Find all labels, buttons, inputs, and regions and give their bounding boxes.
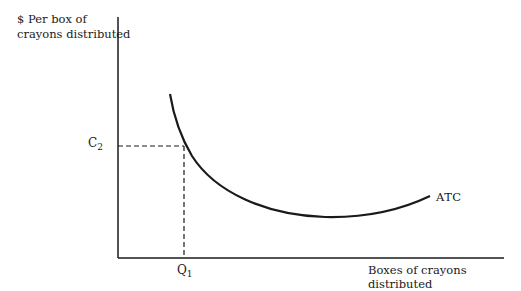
c2-subscript: 2 [97,142,103,152]
c2-letter: C [88,136,97,150]
q1-subscript: 1 [187,269,193,279]
x-axis-label: Boxes of crayons distributed [368,263,521,291]
atc-curve [170,94,430,217]
q1-tick-label: Q1 [177,263,193,279]
q1-letter: Q [177,263,187,277]
atc-label: ATC [436,190,462,204]
c2-tick-label: C2 [88,136,103,152]
